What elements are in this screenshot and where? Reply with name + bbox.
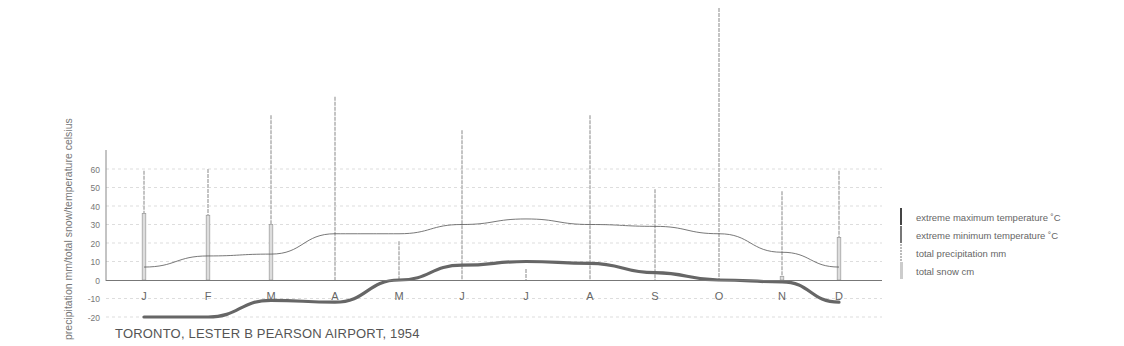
x-tick-label: S [651, 290, 658, 302]
y-axis-label: precipitation mm/total snow/temperature … [62, 118, 74, 340]
legend-label: extreme maximum temperature ˚C [916, 212, 1061, 223]
precipitation-bars [144, 8, 839, 280]
legend-label: extreme minimum temperature ˚C [916, 230, 1058, 241]
y-tick-label: 10 [91, 257, 101, 267]
snow-bar [837, 237, 841, 280]
legend-label: total snow cm [916, 266, 974, 277]
chart-title: TORONTO, LESTER B PEARSON AIRPORT, 1954 [115, 326, 420, 341]
min-temperature-line [144, 262, 839, 318]
legend-swatch-precipitation [900, 244, 902, 261]
y-tick-label: 20 [91, 239, 101, 249]
x-tick-label: F [205, 290, 212, 302]
x-tick-label: J [459, 290, 465, 302]
snow-bars [142, 213, 841, 280]
y-axis-ticks: 6050403020100-10-20 [88, 165, 101, 323]
snow-bar [206, 215, 210, 280]
legend-swatch-min-temp [900, 226, 902, 243]
legend-label: total precipitation mm [916, 248, 1006, 259]
snow-bar [142, 213, 146, 280]
y-tick-label: -20 [88, 313, 101, 323]
y-tick-label: 0 [95, 276, 100, 286]
legend-swatch-max-temp [900, 208, 902, 225]
x-axis-labels: JFMAMJJASOND [141, 290, 843, 302]
y-tick-label: -10 [88, 294, 101, 304]
y-tick-label: 30 [91, 220, 101, 230]
x-tick-label: A [586, 290, 594, 302]
x-tick-label: N [778, 290, 786, 302]
x-tick-label: J [523, 290, 529, 302]
climate-chart: 6050403020100-10-20 JFMAMJJASOND [0, 0, 1124, 346]
snow-bar [780, 276, 784, 280]
x-tick-label: A [331, 290, 339, 302]
y-tick-label: 60 [91, 165, 101, 175]
x-tick-label: O [715, 290, 724, 302]
x-tick-label: J [141, 290, 147, 302]
x-tick-label: M [266, 290, 275, 302]
x-tick-label: D [835, 290, 843, 302]
gridlines [106, 169, 882, 317]
snow-bar [269, 225, 273, 281]
y-tick-label: 40 [91, 202, 101, 212]
y-tick-label: 50 [91, 183, 101, 193]
x-tick-label: M [394, 290, 403, 302]
legend-swatch-snow [900, 262, 903, 279]
